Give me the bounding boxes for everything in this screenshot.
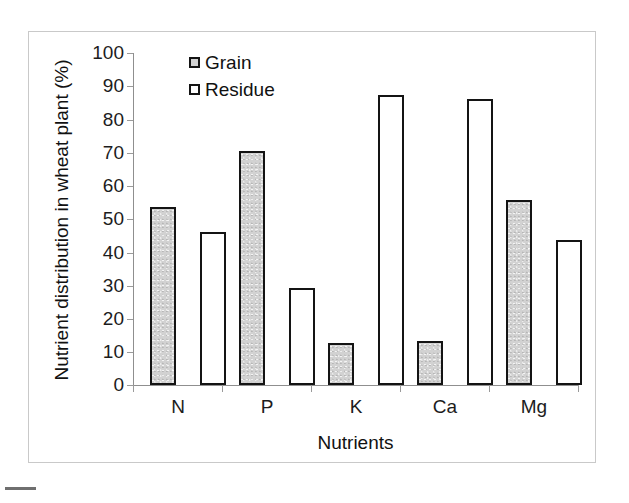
legend-label-grain: Grain bbox=[205, 53, 251, 72]
bar-grain-mg bbox=[506, 200, 532, 385]
y-tick-100 bbox=[127, 53, 133, 54]
bar-residue-p bbox=[289, 288, 315, 385]
y-tick-label-50: 50 bbox=[88, 209, 124, 228]
bar-grain-k bbox=[328, 343, 354, 385]
x-tick-label-mg: Mg bbox=[489, 396, 579, 418]
y-tick-label-60: 60 bbox=[88, 176, 124, 195]
y-tick-label-10: 10 bbox=[88, 342, 124, 361]
y-tick-label-80: 80 bbox=[88, 110, 124, 129]
y-tick-label-0: 0 bbox=[88, 375, 124, 394]
y-tick-label-100: 100 bbox=[88, 43, 124, 62]
x-tick-end bbox=[578, 385, 579, 392]
y-tick-50 bbox=[127, 219, 133, 220]
bar-residue-n bbox=[200, 232, 226, 385]
bar-grain-p bbox=[239, 151, 265, 385]
y-tick-20 bbox=[127, 319, 133, 320]
legend-label-residue: Residue bbox=[205, 80, 275, 99]
x-tick-3 bbox=[400, 385, 401, 392]
y-tick-label-20: 20 bbox=[88, 309, 124, 328]
y-tick-90 bbox=[127, 86, 133, 87]
x-tick-label-n: N bbox=[133, 396, 223, 418]
x-tick-label-p: P bbox=[222, 396, 312, 418]
figure: 100 90 80 70 60 50 40 30 20 10 0 bbox=[0, 0, 629, 503]
y-tick-40 bbox=[127, 253, 133, 254]
y-axis-title: Nutrient distribution in wheat plant (%) bbox=[51, 50, 73, 390]
x-tick-1 bbox=[222, 385, 223, 392]
y-tick-10 bbox=[127, 352, 133, 353]
y-tick-label-40: 40 bbox=[88, 243, 124, 262]
x-axis-title: Nutrients bbox=[133, 432, 578, 454]
y-tick-label-90: 90 bbox=[88, 76, 124, 95]
x-axis-line bbox=[133, 385, 578, 386]
legend-item-grain: Grain bbox=[189, 49, 275, 76]
legend-swatch-residue-icon bbox=[189, 84, 200, 95]
bar-grain-ca bbox=[417, 341, 443, 385]
bar-residue-ca bbox=[467, 99, 493, 385]
x-tick-2 bbox=[311, 385, 312, 392]
legend-item-residue: Residue bbox=[189, 76, 275, 103]
y-axis-line bbox=[133, 53, 134, 386]
y-tick-70 bbox=[127, 153, 133, 154]
legend-swatch-grain-icon bbox=[189, 57, 200, 68]
x-tick-label-k: K bbox=[311, 396, 401, 418]
x-tick-label-ca: Ca bbox=[400, 396, 490, 418]
x-tick-start bbox=[133, 385, 134, 392]
y-tick-60 bbox=[127, 186, 133, 187]
legend: Grain Residue bbox=[189, 49, 275, 103]
y-tick-30 bbox=[127, 286, 133, 287]
x-tick-4 bbox=[489, 385, 490, 392]
bar-residue-mg bbox=[556, 240, 582, 385]
y-tick-label-30: 30 bbox=[88, 276, 124, 295]
bar-grain-n bbox=[150, 207, 176, 385]
plot-area: 100 90 80 70 60 50 40 30 20 10 0 bbox=[0, 0, 629, 503]
bottom-rule-mark bbox=[5, 487, 36, 490]
y-tick-80 bbox=[127, 120, 133, 121]
y-tick-label-70: 70 bbox=[88, 143, 124, 162]
bar-residue-k bbox=[378, 95, 404, 385]
